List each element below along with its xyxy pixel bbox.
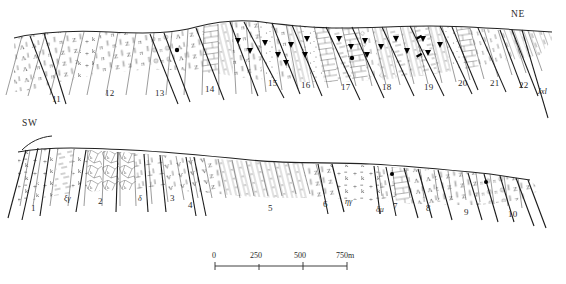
upper-unit-label-22: 22	[519, 80, 528, 90]
lower-unit-label-3: 3	[170, 193, 175, 203]
upper-unit-label-15: 15	[268, 78, 277, 88]
cross-section-figure: π ∥ Z ∥ Λ ∥ + k	[0, 0, 566, 284]
direction-label-sw: SW	[22, 118, 37, 128]
scale-tick-0: 0	[212, 251, 216, 260]
lower-unit-label-10: 10	[508, 209, 517, 219]
scale-tick-750m: 750m	[336, 251, 354, 260]
upper-unit-label-16: 16	[301, 80, 310, 90]
lower-unit-label-4: 4	[188, 200, 193, 210]
upper-unit-label-17: 17	[341, 82, 350, 92]
intrusion-code-delta: δ	[138, 194, 142, 203]
upper-unit-label-13: 13	[155, 88, 164, 98]
lower-unit-label-8: 8	[426, 203, 431, 213]
upper-unit-label-20: 20	[458, 78, 467, 88]
lower-unit-label-9: 9	[464, 207, 469, 217]
scale-tick-500: 500	[294, 251, 306, 260]
scale-bar-graphic	[215, 262, 347, 270]
upper-unit-label-21: 21	[490, 78, 499, 88]
lower-unit-label-2: 2	[98, 196, 103, 206]
direction-label-ne: NE	[511, 9, 525, 19]
upper-unit-label-12: 12	[105, 88, 114, 98]
formation-code-jxl: Jxl	[537, 86, 547, 96]
lower-unit-label-6: 6	[323, 199, 328, 209]
upper-unit-label-19: 19	[424, 82, 433, 92]
cross-section-drawing: π ∥ Z ∥ Λ ∥ + k	[0, 0, 566, 284]
intrusion-code-eta-gamma: ηγ	[345, 197, 352, 206]
scale-tick-250: 250	[250, 251, 262, 260]
upper-unit-label-14: 14	[205, 84, 214, 94]
intrusion-code-delta-mu: δμ	[376, 205, 384, 214]
intrusion-code-xi-gamma: ξγ	[64, 194, 71, 203]
sw-slope-curve	[22, 136, 52, 150]
lower-unit-label-5: 5	[268, 203, 273, 213]
lower-unit-label-7: 7	[393, 201, 398, 211]
upper-unit-label-11: 11	[52, 94, 61, 104]
lower-unit-label-1: 1	[31, 203, 36, 213]
lower-section-group	[8, 148, 540, 216]
upper-unit-label-18: 18	[382, 82, 391, 92]
